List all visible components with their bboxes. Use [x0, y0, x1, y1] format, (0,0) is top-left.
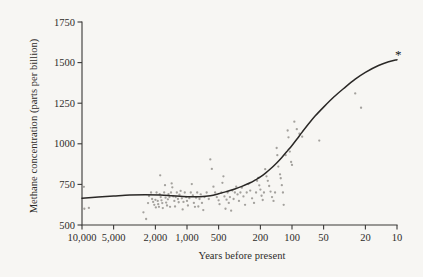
scatter-point: [262, 199, 264, 201]
scatter-point: [242, 195, 244, 197]
scatter-point: [301, 136, 303, 138]
x-tick-label: 10: [372, 232, 422, 243]
scatter-point: [354, 92, 356, 94]
scatter-point: [178, 201, 180, 203]
scatter-point: [193, 202, 195, 204]
scatter-point: [223, 195, 225, 197]
scatter-point: [279, 173, 281, 175]
scatter-point: [171, 182, 173, 184]
scatter-point: [274, 191, 276, 193]
scatter-point: [153, 204, 155, 206]
scatter-point: [163, 191, 165, 193]
scatter-point: [258, 184, 260, 186]
scatter-point: [246, 191, 248, 193]
scatter-point: [224, 208, 226, 210]
scatter-point: [269, 190, 271, 192]
scatter-point: [277, 165, 279, 167]
scatter-point: [158, 206, 160, 208]
scatter-point: [228, 202, 230, 204]
scatter-point: [265, 175, 267, 177]
scatter-point: [260, 195, 262, 197]
methane-concentration-chart: Methane concentration (parts per billion…: [0, 0, 423, 277]
scatter-point: [253, 202, 255, 204]
scatter-point: [205, 191, 207, 193]
scatter-point: [174, 205, 176, 207]
scatter-point: [152, 201, 154, 203]
scatter-point: [283, 204, 285, 206]
scatter-point: [280, 177, 282, 179]
scatter-point: [190, 191, 192, 193]
scatter-point: [222, 175, 224, 177]
scatter-point: [276, 154, 278, 156]
y-tick-label: 1250: [35, 98, 75, 109]
scatter-point: [211, 168, 213, 170]
scatter-point: [157, 200, 159, 202]
scatter-point: [287, 129, 289, 131]
scatter-point: [145, 218, 147, 220]
scatter-point: [249, 189, 251, 191]
scatter-point: [166, 204, 168, 206]
scatter-point: [184, 191, 186, 193]
scatter-point: [209, 158, 211, 160]
scatter-point: [154, 199, 156, 201]
scatter-point: [162, 207, 164, 209]
y-tick-label: 1000: [35, 138, 75, 149]
scatter-point: [259, 188, 261, 190]
scatter-point: [238, 200, 240, 202]
scatter-point: [187, 204, 189, 206]
scatter-point: [198, 198, 200, 200]
scatter-point: [244, 204, 246, 206]
scatter-point: [225, 199, 227, 201]
scatter-point: [276, 147, 278, 149]
scatter-point: [173, 200, 175, 202]
scatter-point: [232, 198, 234, 200]
present-day-marker-icon: *: [395, 48, 402, 61]
scatter-point: [208, 198, 210, 200]
scatter-point: [159, 174, 161, 176]
scatter-point: [212, 186, 214, 188]
scatter-point: [360, 107, 362, 109]
scatter-point: [200, 193, 202, 195]
scatter-point: [197, 205, 199, 207]
scatter-point: [178, 193, 180, 195]
scatter-point: [251, 197, 253, 199]
y-tick-label: 750: [35, 179, 75, 190]
scatter-point: [182, 201, 184, 203]
scatter-point: [281, 184, 283, 186]
scatter-point: [318, 139, 320, 141]
scatter-point: [214, 191, 216, 193]
scatter-point: [83, 208, 85, 210]
scatter-point: [236, 193, 238, 195]
scatter-point: [289, 150, 291, 152]
y-tick-label: 1750: [35, 17, 75, 28]
scatter-point: [177, 198, 179, 200]
scatter-point: [142, 211, 144, 213]
scatter-point: [234, 191, 236, 193]
trend-curve-group: [82, 60, 397, 199]
scatter-point: [216, 196, 218, 198]
scatter-point: [160, 199, 162, 201]
scatter-point: [255, 191, 257, 193]
scatter-point: [196, 191, 198, 193]
scatter-point: [202, 209, 204, 211]
axes-group: [78, 22, 398, 230]
scatter-point: [264, 168, 266, 170]
scatter-point: [229, 196, 231, 198]
scatter-point: [155, 206, 157, 208]
y-tick-label: 500: [35, 220, 75, 231]
scatter-point: [218, 203, 220, 205]
trend-curve: [82, 60, 397, 199]
scatter-point: [230, 210, 232, 212]
scatter-point: [157, 203, 159, 205]
y-axis-title: Methane concentration (parts per billion…: [26, 21, 42, 231]
scatter-point: [201, 202, 203, 204]
scatter-point: [291, 164, 293, 166]
scatter-point: [290, 161, 292, 163]
scatter-point: [164, 197, 166, 199]
scatter-point: [164, 184, 166, 186]
scatter-point: [147, 202, 149, 204]
scatter-point: [171, 186, 173, 188]
scatter-point: [191, 183, 193, 185]
scatter-point: [267, 180, 269, 182]
scatter-point: [160, 196, 162, 198]
